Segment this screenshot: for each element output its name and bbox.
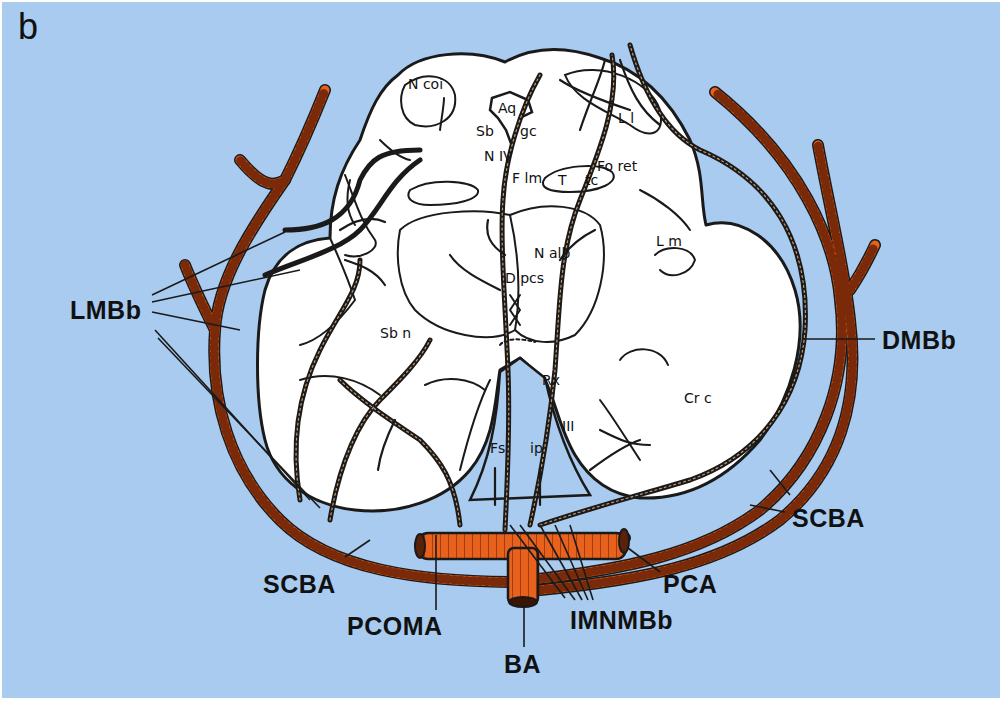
label-pcoma: PCOMA [347,612,443,641]
label-t: T [558,172,567,188]
figure-canvas: b LMBb DMBb SCBA SCBA PCOMA PCA IMNMBb B… [0,0,1007,701]
label-rx: Rx [542,372,560,388]
label-n-coi: N coi [408,76,443,92]
label-pca: PCA [663,570,717,599]
label-l-m: L m [656,233,682,249]
label-sb: Sb [476,123,494,139]
label-fo-ret: Fo ret [597,158,637,174]
label-aq: Aq [498,100,516,116]
label-f-lm: F lm [512,170,542,186]
label-n-iv: N IV [484,148,513,164]
label-scba-left: SCBA [263,570,336,599]
label-lmbb: LMBb [70,296,141,325]
label-sb-n: Sb n [380,325,411,341]
label-cr-c: Cr c [684,390,712,406]
label-tc: tc [585,172,598,188]
label-d-pcs: D pcs [505,270,544,286]
label-scba-right: SCBA [792,504,865,533]
label-l-l: L l [618,110,634,126]
label-imnmbb: IMNMBb [570,606,673,635]
panel-letter: b [18,6,38,48]
label-fs: Fs [490,440,505,456]
label-iii: III [562,418,574,434]
label-ba: BA [504,650,541,679]
label-n-alb: N alb [534,245,570,261]
label-ip: ip [530,440,543,456]
label-gc: gc [520,123,537,139]
label-dmbb: DMBb [882,326,956,355]
